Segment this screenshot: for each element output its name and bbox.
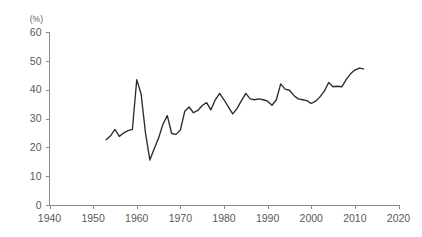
y-tick-label: 0 (36, 199, 42, 211)
x-tick-label: 2000 (300, 212, 324, 224)
x-tick-label: 1960 (125, 212, 149, 224)
y-tick-label: 50 (30, 55, 42, 67)
line-chart: (%) 0102030405060 1940195019601970198019… (0, 0, 422, 237)
y-tick-label: 10 (30, 170, 42, 182)
x-tick-label: 1990 (256, 212, 280, 224)
y-axis-ticks: 0102030405060 (30, 26, 50, 211)
x-tick-label: 1950 (81, 212, 105, 224)
x-axis: 194019501960197019801990200020102020 (38, 205, 411, 224)
y-axis-unit-label: (%) (30, 14, 43, 24)
x-axis-ticks: 194019501960197019801990200020102020 (38, 205, 411, 224)
y-tick-label: 60 (30, 26, 42, 38)
x-tick-label: 2010 (343, 212, 367, 224)
x-tick-label: 1980 (212, 212, 236, 224)
x-tick-label: 1940 (38, 212, 62, 224)
x-tick-label: 2020 (387, 212, 411, 224)
y-tick-label: 40 (30, 83, 42, 95)
y-axis: 0102030405060 (30, 26, 50, 211)
chart-container: (%) 0102030405060 1940195019601970198019… (0, 0, 422, 237)
y-tick-label: 30 (30, 112, 42, 124)
data-series-line (106, 68, 363, 160)
y-tick-label: 20 (30, 141, 42, 153)
x-tick-label: 1970 (169, 212, 193, 224)
